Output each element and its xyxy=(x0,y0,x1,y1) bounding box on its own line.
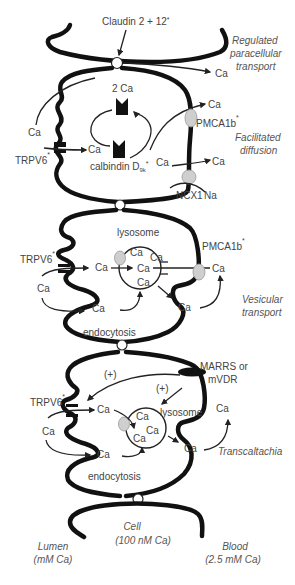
calbindin-bound-icon xyxy=(116,98,128,115)
pmca1b-pump-2 xyxy=(193,264,205,280)
vesicular-label-1: Vesicular xyxy=(242,294,283,305)
transcaltachia-label: Transcaltachia xyxy=(218,446,283,457)
lysosome-label-1: lysosome xyxy=(117,227,160,238)
vesicular-label-2: transport xyxy=(242,307,283,318)
marrs-label-1: MARRS or xyxy=(200,361,248,372)
exocytosed-ca-2: Ca xyxy=(184,443,197,454)
marrs-label-2: mVDR xyxy=(208,374,237,385)
claudin-label: Claudin 2 + 12* xyxy=(102,16,170,27)
cell-conc-label: (100 nM Ca) xyxy=(115,535,171,546)
exocytosed-ca-1: Ca xyxy=(178,302,191,313)
lysosome-ca-c: Ca xyxy=(137,277,150,288)
lysosome2-ca-b: Ca xyxy=(146,425,159,436)
lumen-conc-label: (mM Ca) xyxy=(34,554,73,565)
na-label: Na xyxy=(204,190,217,201)
lysosome2-ca-a: Ca xyxy=(136,411,149,422)
lysosome-ca-a: Ca xyxy=(130,247,143,258)
trpv6-channel-1 xyxy=(54,142,66,147)
blood-ca-3: Ca xyxy=(216,403,229,414)
plus-label-2: (+) xyxy=(156,383,169,394)
apical-ca-curve xyxy=(36,78,95,125)
blood-label: Blood xyxy=(222,541,248,552)
ncx-ca-out: Ca xyxy=(212,156,225,167)
calbindin-cycle-left xyxy=(91,110,112,146)
paracellular-ca: Ca xyxy=(215,68,228,79)
calbindin-cycle-right xyxy=(130,112,151,158)
cytosol-ca-2: Ca xyxy=(95,262,108,273)
lysosome-pump-1 xyxy=(115,251,126,265)
trpv6-label-2: TRPV6* xyxy=(20,250,55,265)
two-ca-label: 2 Ca xyxy=(112,83,134,94)
ncx1-exchanger xyxy=(182,170,196,184)
paracellular-label-3: transport xyxy=(236,61,277,72)
lumen-label: Lumen xyxy=(38,541,69,552)
facilitated-label-1: Facilitated xyxy=(235,132,281,143)
cell-label: Cell xyxy=(123,521,141,532)
plus-label-1: (+) xyxy=(104,369,117,380)
calbindin-free-icon xyxy=(113,140,125,158)
ncx-ca-in: Ca xyxy=(156,157,169,168)
pmca1b-label-1: PMCA1b* xyxy=(196,114,239,129)
cytosol-ca-3: Ca xyxy=(97,404,110,415)
lumen-ca-3: Ca xyxy=(42,426,55,437)
lumen-ca-2: Ca xyxy=(37,283,50,294)
calbindin-label: calbindin D9k* xyxy=(90,160,149,173)
endocytosis-label-2: endocytosis xyxy=(88,471,141,482)
paracellular-label-1: Regulated xyxy=(232,35,278,46)
trpv6-label-3: TRPV6* xyxy=(30,393,65,408)
lysosome2-ca-c: Ca xyxy=(133,433,146,444)
paracellular-label-2: paracellular xyxy=(229,48,282,59)
exocytosis-arrow-1 xyxy=(200,276,220,308)
endosome-to-lysosome-arrow-2 xyxy=(122,448,142,457)
pmca-ca-out-1: Ca xyxy=(208,99,221,110)
ncx1-label: NCX1 xyxy=(176,190,203,201)
claudin-arrow xyxy=(119,30,126,55)
facilitated-label-2: diffusion xyxy=(240,145,278,156)
trpv6-label-1: TRPV6* xyxy=(15,151,50,166)
trpv6-channel-3 xyxy=(66,404,78,407)
endocytosis-label-1: endocytosis xyxy=(83,327,136,338)
lysosome-ca-b: Ca xyxy=(137,263,150,274)
lumen-ca-1: Ca xyxy=(28,127,41,138)
lysosome-to-exo-arrow xyxy=(158,286,172,298)
lysosome-pump-2 xyxy=(119,417,130,431)
blood-conc-label: (2.5 mM Ca) xyxy=(205,554,261,565)
pmca1b-label-2: PMCA1b* xyxy=(202,237,245,252)
trpv6-channel-2 xyxy=(58,264,70,267)
trpv6-influx-arrow-1 xyxy=(44,148,86,150)
lysosome-to-exo-arrow-2 xyxy=(168,436,178,442)
pmca-ca-out-2: Ca xyxy=(212,263,225,274)
lysosome-label-2: lysosome xyxy=(160,407,203,418)
tight-junction-2 xyxy=(117,340,127,350)
endocytosed-ca-1: Ca xyxy=(92,303,105,314)
endocytosed-ca-2: Ca xyxy=(97,449,110,460)
endosome-to-lysosome-arrow xyxy=(120,292,140,310)
top-cell-membrane xyxy=(48,25,226,62)
calcium-transport-diagram: Claudin 2 + 12* Ca Regulated paracellula… xyxy=(0,0,295,585)
cytosol-ca-1: Ca xyxy=(88,144,101,155)
